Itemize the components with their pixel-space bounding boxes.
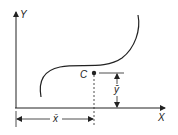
centroid-label: C <box>80 69 88 80</box>
centroid-point <box>92 71 96 75</box>
centroid-diagram: Y X C ȳ x̄ <box>0 0 178 135</box>
x-bar-label: x̄ <box>52 113 59 124</box>
y-axis-label: Y <box>20 9 28 20</box>
y-bar-label: ȳ <box>113 84 120 95</box>
diagram-svg: Y X C ȳ x̄ <box>0 0 178 135</box>
curve <box>40 15 138 97</box>
x-axis-label: X <box>157 112 165 123</box>
